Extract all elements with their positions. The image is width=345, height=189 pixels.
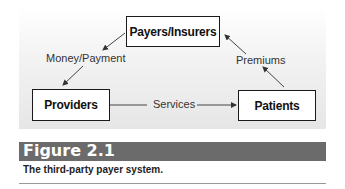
arrow-premiums-to-payers (225, 35, 246, 54)
node-payers: Payers/Insurers (126, 16, 220, 47)
arrow-payers-to-money (103, 33, 125, 50)
figure-label: Figure 2.1 (23, 141, 115, 160)
edge-label-premiums: Premiums (236, 54, 286, 66)
node-providers: Providers (32, 89, 110, 121)
divider (19, 183, 326, 184)
figure-caption: The third-party payer system. (23, 164, 163, 175)
node-patients: Patients (238, 90, 316, 121)
arrow-money-to-providers (63, 66, 83, 85)
edge-label-services: Services (153, 98, 195, 110)
edge-label-money: Money/Payment (46, 52, 125, 64)
arrow-patients-to-premiums (263, 67, 284, 87)
